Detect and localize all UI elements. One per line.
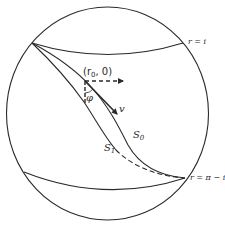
label-s0-text: S (133, 129, 140, 140)
label-point-text: (r (83, 66, 91, 77)
label-r-equals-i: r = i (188, 38, 206, 46)
label-s1-text: S (104, 142, 111, 153)
diagram-canvas: r = i r = π − i (r0, 0) φ v S0 S1 (0, 0, 225, 226)
diagram-svg (0, 0, 225, 226)
label-r-equals-pi-minus-i: r = π − i (190, 174, 225, 182)
label-curve-S1: S1 (104, 143, 115, 155)
label-angle-phi: φ (86, 93, 93, 103)
r-equals-i-arc (32, 43, 183, 55)
curve-S1-solid (32, 43, 116, 150)
label-s0-subscript: 0 (140, 134, 144, 142)
label-s1-subscript: 1 (111, 147, 115, 155)
curve-S0 (32, 43, 185, 178)
label-vector-v: v (119, 104, 125, 114)
sphere-outline (7, 7, 209, 220)
label-point-r0: (r0, 0) (83, 67, 112, 79)
curve-S1-dashed (116, 150, 185, 178)
label-point-tail: , 0) (95, 66, 112, 77)
label-curve-S0: S0 (133, 130, 144, 142)
